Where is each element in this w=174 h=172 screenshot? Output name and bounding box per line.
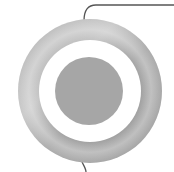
top-connector (84, 5, 174, 21)
bottom-connector (82, 162, 86, 172)
inner-disk (55, 57, 123, 125)
target-diagram (0, 0, 174, 172)
